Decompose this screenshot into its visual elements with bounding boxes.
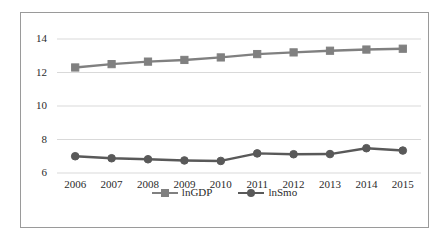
data-point-marker: [181, 157, 189, 165]
data-point-marker: [253, 150, 261, 158]
y-axis-tick-label: 8: [21, 134, 47, 145]
data-point-marker: [144, 58, 151, 65]
data-point-marker: [108, 61, 115, 68]
chart-frame: lnGDP lnSmo 6810121420062007200820092010…: [20, 12, 429, 228]
data-point-marker: [144, 155, 152, 163]
data-point-marker: [326, 47, 333, 54]
series-line-lngdp: [75, 49, 403, 68]
data-point-marker: [399, 147, 407, 155]
data-point-marker: [71, 152, 79, 160]
data-point-marker: [363, 46, 370, 53]
x-axis-tick-label: 2015: [381, 179, 425, 190]
data-point-marker: [290, 49, 297, 56]
data-point-marker: [399, 45, 406, 52]
data-point-marker: [217, 54, 224, 61]
series-line-lnsmo: [75, 148, 403, 161]
y-axis-tick-label: 10: [21, 100, 47, 111]
data-point-marker: [254, 50, 261, 57]
data-point-marker: [181, 56, 188, 63]
y-axis-tick-label: 12: [21, 67, 47, 78]
data-point-marker: [72, 64, 79, 71]
data-point-marker: [363, 144, 371, 152]
data-point-marker: [217, 157, 225, 165]
y-axis-tick-label: 6: [21, 167, 47, 178]
data-point-marker: [326, 150, 334, 158]
y-axis-tick-label: 14: [21, 33, 47, 44]
data-point-marker: [290, 150, 298, 158]
data-point-marker: [108, 154, 116, 162]
